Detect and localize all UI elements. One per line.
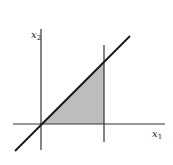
x1-axis-label: x1 (152, 128, 162, 141)
diagram-canvas: x2 x1 (0, 0, 173, 165)
x2-axis-label: x2 (31, 29, 41, 42)
diagonal-line (15, 36, 130, 151)
